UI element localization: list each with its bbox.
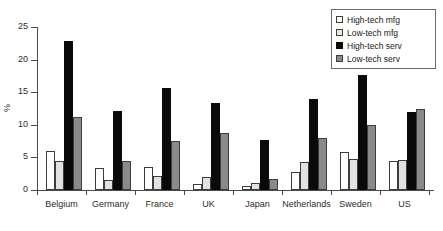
bar bbox=[64, 41, 73, 190]
x-tick-label: US bbox=[398, 199, 411, 209]
bar bbox=[291, 172, 300, 190]
x-tick bbox=[184, 190, 185, 195]
bar-group bbox=[144, 27, 180, 190]
bar bbox=[46, 151, 55, 190]
y-tick-label: 20 bbox=[0, 55, 28, 64]
legend-label: High-tech serv bbox=[347, 41, 402, 51]
x-tick bbox=[282, 190, 283, 195]
bar bbox=[309, 99, 318, 190]
x-tick bbox=[331, 190, 332, 195]
legend-label: Low-tech serv bbox=[347, 54, 400, 64]
x-tick-label: Netherlands bbox=[282, 199, 331, 209]
bar bbox=[113, 111, 122, 190]
y-axis-title: % bbox=[2, 104, 12, 112]
bar-chart: % 0510152025 BelgiumGermanyFranceUKJapan… bbox=[0, 0, 443, 231]
bar bbox=[162, 88, 171, 190]
bar-group bbox=[193, 27, 229, 190]
legend-swatch-icon-high-tech-mfg bbox=[336, 16, 343, 23]
bar bbox=[211, 103, 220, 190]
legend-label: Low-tech mfg bbox=[347, 28, 398, 38]
bar bbox=[122, 161, 131, 190]
x-tick bbox=[233, 190, 234, 195]
bar bbox=[358, 75, 367, 190]
bar bbox=[73, 117, 82, 190]
legend-label: High-tech mfg bbox=[347, 15, 400, 25]
x-tick bbox=[380, 190, 381, 195]
bar bbox=[340, 152, 349, 190]
legend-item-high-tech-mfg: High-tech mfg bbox=[336, 13, 431, 26]
y-tick-label: 10 bbox=[0, 120, 28, 129]
legend-item-low-tech-serv: Low-tech serv bbox=[336, 52, 431, 65]
bar bbox=[416, 109, 425, 190]
bar bbox=[104, 180, 113, 190]
x-tick bbox=[135, 190, 136, 195]
x-tick-label: Sweden bbox=[339, 199, 372, 209]
bar-group bbox=[46, 27, 82, 190]
x-tick-label: France bbox=[145, 199, 173, 209]
bar bbox=[367, 125, 376, 190]
bar-group bbox=[291, 27, 327, 190]
y-tick-label: 5 bbox=[0, 152, 28, 161]
x-tick-label: Germany bbox=[92, 199, 129, 209]
legend-item-low-tech-mfg: Low-tech mfg bbox=[336, 26, 431, 39]
x-tick bbox=[429, 190, 430, 195]
legend-swatch-icon-low-tech-mfg bbox=[336, 29, 343, 36]
legend-swatch-icon-high-tech-serv bbox=[336, 42, 343, 49]
y-tick-label: 15 bbox=[0, 87, 28, 96]
bar bbox=[153, 176, 162, 190]
legend-item-high-tech-serv: High-tech serv bbox=[336, 39, 431, 52]
x-tick-label: UK bbox=[202, 199, 215, 209]
bar bbox=[398, 160, 407, 190]
x-tick-label: Japan bbox=[245, 199, 270, 209]
x-tick bbox=[86, 190, 87, 195]
bar bbox=[300, 162, 309, 190]
bar-group bbox=[95, 27, 131, 190]
y-tick-label: 0 bbox=[0, 185, 28, 194]
bar bbox=[55, 161, 64, 190]
bar bbox=[220, 133, 229, 190]
bar bbox=[242, 186, 251, 190]
bar bbox=[202, 177, 211, 190]
x-tick bbox=[37, 190, 38, 195]
chart-legend: High-tech mfg Low-tech mfg High-tech ser… bbox=[331, 9, 436, 69]
bar bbox=[407, 112, 416, 190]
bar bbox=[269, 179, 278, 190]
x-tick-label: Belgium bbox=[45, 199, 78, 209]
bar bbox=[144, 167, 153, 190]
bar bbox=[171, 141, 180, 190]
bar bbox=[260, 140, 269, 190]
bar bbox=[95, 168, 104, 190]
x-axis-line bbox=[37, 190, 434, 191]
bar bbox=[389, 161, 398, 190]
legend-swatch-icon-low-tech-serv bbox=[336, 55, 343, 62]
bar bbox=[318, 138, 327, 190]
bar bbox=[193, 184, 202, 190]
bar bbox=[251, 183, 260, 190]
y-tick-label: 25 bbox=[0, 22, 28, 31]
bar bbox=[349, 159, 358, 190]
bar-group bbox=[242, 27, 278, 190]
